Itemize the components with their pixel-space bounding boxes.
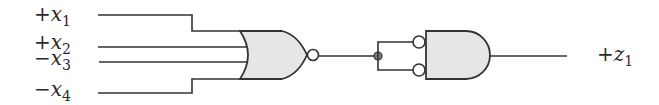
wire-x4 [98, 79, 244, 93]
and-input-bubble-bottom-icon [413, 64, 425, 76]
nor-output-bubble-icon [308, 50, 319, 61]
logic-circuit-diagram: +x1 +x2 −x3 −x4 +z1 [0, 0, 659, 105]
input-label-x1: +x1 [34, 2, 71, 29]
wire-branch-bottom [378, 56, 413, 70]
wire-branch-top [378, 42, 413, 56]
and-input-bubble-top-icon [413, 36, 425, 48]
and-gate [426, 31, 490, 79]
input-label-x4: −x4 [34, 77, 71, 104]
nor-gate [240, 31, 307, 79]
output-label-z1: +z1 [597, 42, 633, 69]
wire-x1 [98, 15, 244, 31]
